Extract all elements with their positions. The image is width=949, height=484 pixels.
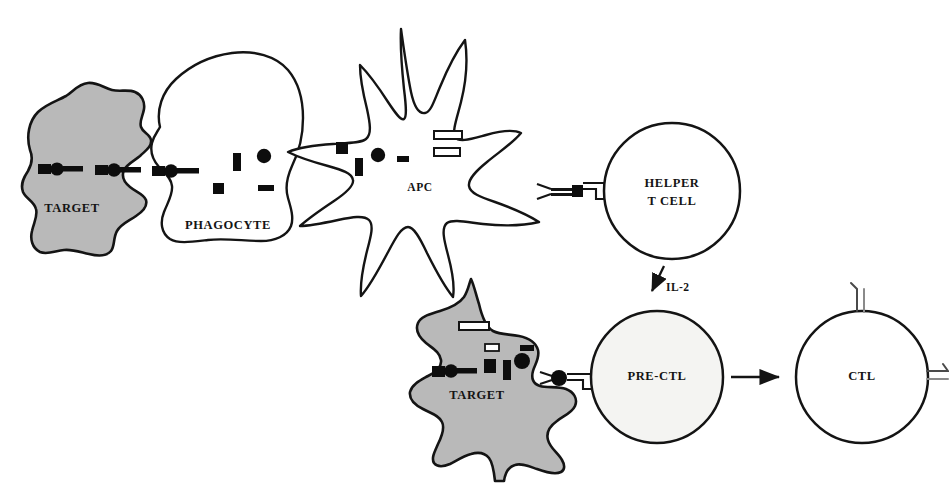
- hollow-bar-marker: [459, 322, 489, 330]
- cell-ctl: CTL: [796, 283, 948, 443]
- apc-helper-t-synapse: [537, 183, 609, 199]
- mhc-clamp: [540, 372, 552, 384]
- hollow-bar-marker: [485, 344, 499, 351]
- diagram-canvas: PHAGOCYTE TARGET: [0, 0, 949, 484]
- filled-square-marker: [484, 359, 496, 373]
- filled-bar-marker: [520, 345, 534, 351]
- cell-helper-t: HELPER T CELL: [604, 123, 740, 259]
- il2-signal: IL-2: [652, 266, 689, 293]
- antigen-peptide-marker: [551, 370, 567, 386]
- apc-membrane: [288, 29, 539, 297]
- antigen-peptide-marker: [572, 185, 583, 197]
- filled-bar-marker: [397, 156, 409, 162]
- ctl-label: CTL: [848, 369, 876, 383]
- mhc-clamp: [537, 184, 551, 199]
- filled-square-marker: [336, 142, 348, 154]
- il2-arrow[interactable]: [652, 266, 664, 291]
- cell-phagocyte: PHAGOCYTE: [151, 52, 303, 242]
- filled-bar-marker: [233, 153, 241, 171]
- cell-apc: APC: [288, 29, 539, 297]
- filled-bar-marker: [355, 158, 363, 176]
- filled-circle-marker: [514, 353, 530, 369]
- filled-circle-marker: [257, 149, 271, 163]
- filled-circle-marker: [371, 148, 385, 162]
- phagocyte-label: PHAGOCYTE: [185, 218, 271, 232]
- helper-t-label-line2: T CELL: [648, 194, 697, 208]
- hollow-bar-marker: [434, 131, 462, 139]
- target-upper-label: TARGET: [44, 201, 100, 215]
- immunology-diagram: PHAGOCYTE TARGET: [0, 0, 949, 484]
- antigen-mhc-complex: [95, 163, 141, 177]
- tcr-receptor-icon: [851, 283, 864, 312]
- filled-bar-marker: [503, 360, 511, 380]
- filled-square-marker: [213, 183, 224, 194]
- hollow-bar-marker: [434, 148, 460, 156]
- helper-t-membrane: [604, 123, 740, 259]
- helper-t-label-line1: HELPER: [645, 176, 700, 190]
- target-lower-label: TARGET: [449, 388, 505, 402]
- pre-ctl-label: PRE-CTL: [627, 369, 686, 383]
- filled-bar-marker: [258, 185, 274, 191]
- phagocyte-membrane: [151, 52, 303, 242]
- cell-pre-ctl: PRE-CTL: [591, 311, 723, 443]
- apc-label: APC: [407, 181, 432, 193]
- tcr-receptor-icon: [927, 364, 948, 379]
- il2-label: IL-2: [666, 281, 689, 293]
